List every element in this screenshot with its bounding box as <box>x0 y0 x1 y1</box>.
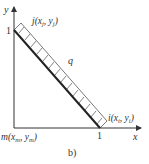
load-label-q: q <box>68 55 73 66</box>
triangular-element-diagram: y x 1 1 j(xj, yj) q i(xi, yi) m(xm, ym) … <box>0 0 149 164</box>
node-i-label: i(xi, yi) <box>108 113 134 124</box>
x-axis-label: x <box>132 131 138 142</box>
node-j-label: j(xj, yj) <box>30 16 58 27</box>
figure-caption: b) <box>68 147 76 159</box>
y-tick-1: 1 <box>6 25 11 36</box>
x-tick-1: 1 <box>97 130 102 141</box>
distributed-load-hatching <box>14 23 107 128</box>
element-edge-ij <box>14 30 100 128</box>
y-axis-label: y <box>3 4 9 15</box>
node-m-label: m(xm, ym) <box>1 132 37 143</box>
